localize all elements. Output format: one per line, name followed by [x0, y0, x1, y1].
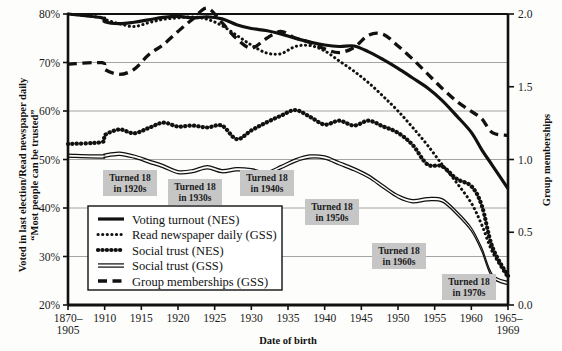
legend-label: Read newspaper daily (GSS)	[132, 228, 277, 242]
x-tick-label: 1910	[93, 312, 116, 324]
annotation-1: Turned 18in 1920s	[103, 170, 157, 196]
annotation-label-line1: Turned 18	[448, 277, 490, 287]
left-tick-label: 30%	[39, 251, 61, 263]
legend-label: Voting turnout (NES)	[132, 213, 239, 227]
chart-figure: 20%30%40%50%60%70%80% 0.00.51.01.52.0 18…	[0, 0, 562, 351]
x-tick-label: 1870–	[54, 312, 83, 324]
x-tick-label: 1960	[460, 312, 483, 324]
chart-legend[interactable]: Voting turnout (NES)Read newspaper daily…	[88, 206, 282, 290]
left-tick-label: 70%	[39, 57, 61, 69]
annotation-label-line2: in 1930s	[179, 193, 212, 203]
x-tick-label: 1955	[423, 312, 446, 324]
left-tick-label: 80%	[39, 8, 61, 20]
legend-label: Group memberships (GSS)	[132, 275, 268, 289]
annotation-4: Turned 18in 1950s	[305, 199, 359, 225]
annotation-3: Turned 18in 1940s	[240, 170, 294, 196]
x-tick-label: 1920	[167, 312, 190, 324]
annotation-label-line2: in 1970s	[453, 288, 486, 298]
x-tick-label: 1965–	[494, 312, 523, 324]
right-axis-title: Group memberships	[541, 114, 552, 206]
x-tick-label-line2: 1969	[497, 324, 520, 336]
x-tick-label: 1940	[313, 312, 336, 324]
annotation-label-line2: in 1960s	[383, 257, 416, 267]
x-tick-label: 1935	[277, 312, 300, 324]
left-tick-label: 60%	[39, 105, 61, 117]
left-axis-title-line1: Voted in last election/Read newspaper da…	[17, 77, 28, 272]
annotation-label-line1: Turned 18	[109, 173, 151, 183]
right-tick-label: 0.5	[518, 226, 533, 238]
annotation-5: Turned 18in 1960s	[372, 243, 426, 269]
annotation-label-line1: Turned 18	[174, 182, 216, 192]
right-tick-label: 1.0	[518, 154, 533, 166]
right-tick-label: 2.0	[518, 8, 533, 20]
x-tick-label: 1925	[203, 312, 226, 324]
x-tick-label: 1915	[130, 312, 153, 324]
annotation-6: Turned 18in 1970s	[442, 274, 496, 300]
right-tick-label: 0.0	[518, 299, 533, 311]
annotation-label-line1: Turned 18	[378, 246, 420, 256]
legend-label: Social trust (NES)	[132, 244, 224, 258]
left-tick-label: 40%	[39, 202, 61, 214]
left-tick-label: 20%	[39, 299, 61, 311]
x-axis-title: Date of birth	[259, 335, 317, 346]
x-tick-label: 1930	[240, 312, 263, 324]
right-tick-label: 1.5	[518, 81, 533, 93]
annotation-label-line2: in 1920s	[114, 184, 147, 194]
legend-label: Social trust (GSS)	[132, 259, 223, 273]
x-tick-label-line2: 1905	[57, 324, 80, 336]
annotation-label-line2: in 1950s	[316, 213, 349, 223]
annotation-label-line1: Turned 18	[311, 202, 353, 212]
left-tick-label: 50%	[39, 154, 61, 166]
annotation-label-line2: in 1940s	[251, 184, 284, 194]
x-tick-label: 1945	[350, 312, 373, 324]
x-tick-label: 1950	[387, 312, 410, 324]
left-axis-title-line2: “Most people can be trusted”	[29, 109, 40, 240]
generational-trends-line-chart: 20%30%40%50%60%70%80% 0.00.51.01.52.0 18…	[0, 0, 562, 351]
annotation-2: Turned 18in 1930s	[168, 179, 222, 205]
annotation-label-line1: Turned 18	[246, 173, 288, 183]
